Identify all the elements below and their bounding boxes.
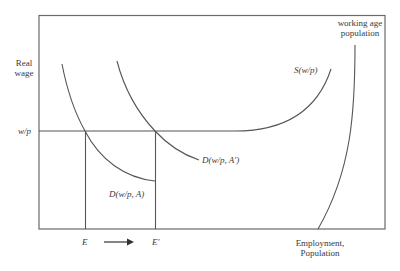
employment-shifted-label: E′	[152, 237, 159, 247]
population-label-line2: population	[325, 28, 395, 38]
supply-curve	[39, 69, 331, 131]
demand-curve-initial	[62, 64, 155, 181]
x-axis-label-line1: Employment,	[280, 238, 360, 248]
x-axis-label-line2: Population	[280, 248, 360, 258]
y-axis-label: Real wage	[12, 58, 36, 78]
demand-shifted-label: D(w/p, A′)	[202, 155, 239, 165]
supply-curve-label: S(w/p)	[294, 65, 318, 75]
diagram-canvas	[0, 0, 400, 271]
y-axis-label-line1: Real	[12, 58, 36, 68]
wage-level-label: w/p	[18, 126, 31, 136]
employment-initial-label: E	[82, 237, 88, 247]
demand-initial-label: D(w/p, A)	[109, 189, 144, 199]
x-axis-label: Employment, Population	[280, 238, 360, 258]
population-label: working age population	[325, 18, 395, 38]
population-curve	[318, 45, 355, 229]
demand-curve-shifted	[117, 61, 199, 160]
arrow-right-icon	[127, 239, 134, 246]
y-axis-label-line2: wage	[12, 68, 36, 78]
population-label-line1: working age	[325, 18, 395, 28]
